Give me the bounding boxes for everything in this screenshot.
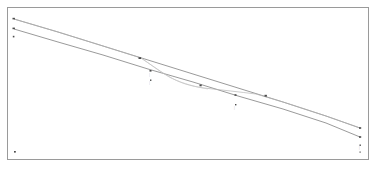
- marker-a: [13, 18, 15, 20]
- point-label-i: |: [234, 106, 235, 110]
- screenshot-root: | | | |: [0, 0, 377, 174]
- marker-l: [359, 136, 361, 138]
- marker-f: [150, 80, 151, 81]
- series-curve-branch: [141, 58, 208, 89]
- point-label-m: |: [359, 146, 360, 150]
- data-point-markers: [13, 18, 362, 153]
- chart-plot-area: | | | |: [8, 8, 368, 159]
- series-lower-line: [14, 29, 360, 137]
- marker-n: [360, 152, 361, 153]
- marker-b: [13, 28, 15, 30]
- series-upper-line: [14, 19, 360, 128]
- marker-i: [235, 104, 236, 105]
- series-marked-curve: [14, 19, 360, 128]
- marker-h: [235, 94, 237, 96]
- marker-d: [139, 57, 142, 59]
- marker-e: [150, 70, 152, 72]
- point-label-f: |: [149, 81, 150, 85]
- marker-c: [13, 36, 15, 38]
- chart-panel: | | | |: [7, 7, 369, 160]
- marker-k: [359, 127, 361, 129]
- point-label-e: |: [149, 73, 150, 77]
- marker-g: [200, 85, 202, 87]
- point-labels: | | | |: [149, 73, 360, 150]
- marker-o: [14, 151, 16, 153]
- marker-j: [265, 95, 267, 97]
